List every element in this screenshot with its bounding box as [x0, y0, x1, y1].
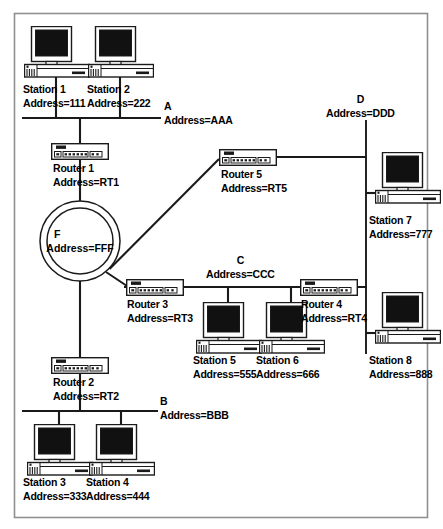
station5-address: Address=555: [193, 368, 256, 382]
station2-address: Address=222: [87, 97, 150, 111]
station2-label: Station 2 Address=222: [87, 83, 150, 110]
network-B-label: B Address=BBB: [160, 395, 229, 422]
station5-name: Station 5: [193, 354, 256, 368]
network-C-label: C Address=CCC: [206, 254, 275, 281]
router4-label: Router 4 Address=RT4: [301, 298, 367, 325]
network-B-address: Address=BBB: [160, 409, 229, 423]
station6-address: Address=666: [256, 368, 319, 382]
router1-icon: [52, 144, 109, 160]
station8-name: Station 8: [369, 354, 432, 368]
network-D-address: Address=DDD: [326, 107, 395, 121]
router1-address: Address=RT1: [53, 176, 119, 190]
network-D-name: D: [326, 93, 395, 107]
station4-name: Station 4: [86, 476, 149, 490]
station7-label: Station 7 Address=777: [369, 214, 432, 241]
station6-name: Station 6: [256, 354, 319, 368]
network-A-name: A: [164, 100, 233, 114]
router2-icon: [52, 358, 109, 374]
router4-address: Address=RT4: [301, 312, 367, 326]
network-F-name: F: [45, 228, 115, 242]
station5-label: Station 5 Address=555: [193, 354, 256, 381]
router2-label: Router 2 Address=RT2: [53, 376, 119, 403]
router2-address: Address=RT2: [53, 390, 119, 404]
router3-name: Router 3: [127, 298, 193, 312]
station6-label: Station 6 Address=666: [256, 354, 319, 381]
station3-address: Address=333: [23, 490, 86, 504]
network-C-name: C: [206, 254, 275, 268]
router4-name: Router 4: [301, 298, 367, 312]
router5-name: Router 5: [221, 168, 287, 182]
station8-address: Address=888: [369, 368, 432, 382]
station4-address: Address=444: [86, 490, 149, 504]
router3-label: Router 3 Address=RT3: [127, 298, 193, 325]
network-B-name: B: [160, 395, 229, 409]
router5-address: Address=RT5: [221, 182, 287, 196]
router3-address: Address=RT3: [127, 312, 193, 326]
router3-icon: [127, 280, 184, 296]
network-diagram: Station 1 Address=111 Station 2 Address=…: [0, 0, 443, 529]
network-F-label: F Address=FFF: [45, 228, 115, 255]
station1-label: Station 1 Address=111: [23, 83, 85, 110]
station7-address: Address=777: [369, 228, 432, 242]
router2-name: Router 2: [53, 376, 119, 390]
network-A-label: A Address=AAA: [164, 100, 233, 127]
station8-icon: [376, 293, 441, 344]
network-C-address: Address=CCC: [206, 268, 275, 282]
router5-label: Router 5 Address=RT5: [221, 168, 287, 195]
station1-name: Station 1: [23, 83, 85, 97]
station1-address: Address=111: [23, 97, 85, 111]
router5-icon: [220, 150, 277, 166]
station4-label: Station 4 Address=444: [86, 476, 149, 503]
station3-label: Station 3 Address=333: [23, 476, 86, 503]
network-A-address: Address=AAA: [164, 114, 233, 128]
station3-name: Station 3: [23, 476, 86, 490]
network-F-address: Address=FFF: [45, 242, 115, 256]
station7-name: Station 7: [369, 214, 432, 228]
station8-label: Station 8 Address=888: [369, 354, 432, 381]
station7-icon: [376, 153, 441, 204]
router1-label: Router 1 Address=RT1: [53, 162, 119, 189]
router4-icon: [301, 280, 358, 296]
station2-name: Station 2: [87, 83, 150, 97]
router1-name: Router 1: [53, 162, 119, 176]
network-D-label: D Address=DDD: [326, 93, 395, 120]
